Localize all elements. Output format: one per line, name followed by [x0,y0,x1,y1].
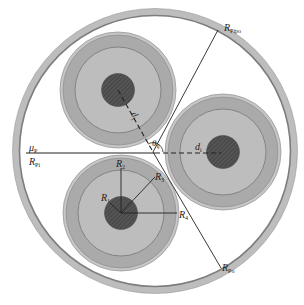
pipe-type-cable-diagram: μP RPi RPipo RPo θij di dj R1 R2 R3 R4 [0,0,304,305]
cable-right [165,94,281,210]
label-r-pipo: RPipo [223,22,241,34]
conductor-core [207,136,240,169]
